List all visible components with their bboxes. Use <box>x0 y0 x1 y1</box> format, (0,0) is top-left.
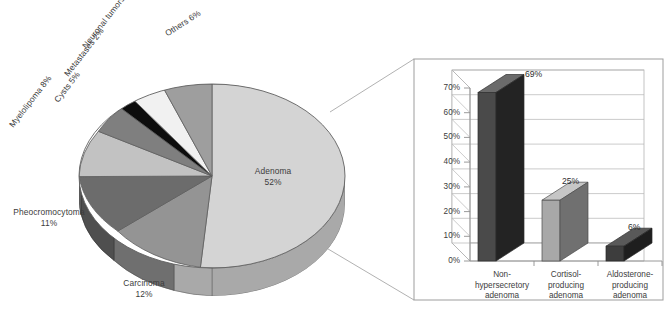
y-tick-40: 40% <box>434 157 460 166</box>
bar-value-label-3: 6% <box>628 222 640 232</box>
bar-value-label-1: 69% <box>525 69 542 79</box>
y-tick-60: 60% <box>434 108 460 117</box>
bar-value-label-2: 25% <box>562 176 579 186</box>
pie-label-pheocromocytoma: Pheocromocytoma 11% <box>2 207 96 228</box>
x-category-aldosterone-producing: Aldosterone- producing adenoma <box>593 270 667 302</box>
y-tick-20: 20% <box>434 207 460 216</box>
figure-canvas: Adenoma 52% Carcinoma 12% Pheocromocytom… <box>0 0 671 322</box>
pie-label-pheocromocytoma-name: Pheocromocytoma <box>2 207 96 218</box>
plot-area-3d <box>452 70 662 266</box>
x-category-non-hypersecretory: Non- hypersecretory adenoma <box>465 270 539 302</box>
pie-label-adenoma: Adenoma 52% <box>242 166 304 187</box>
figure-caption-faint <box>8 313 428 320</box>
y-tick-30: 30% <box>434 182 460 191</box>
bar-non-hypersecretory <box>478 75 524 262</box>
pie-label-pheocromocytoma-value: 11% <box>2 218 96 229</box>
y-tick-50: 50% <box>434 132 460 141</box>
pie-chart <box>79 84 349 296</box>
pie-label-adenoma-value: 52% <box>242 177 304 188</box>
pie-label-carcinoma-name: Carcinoma <box>108 278 180 289</box>
y-tick-10: 10% <box>434 231 460 240</box>
y-tick-70: 70% <box>434 83 460 92</box>
y-tick-0: 0% <box>434 256 460 265</box>
pie-label-adenoma-name: Adenoma <box>242 166 304 177</box>
x-category-cortisol-producing: Cortisol- producing adenoma <box>529 270 603 302</box>
pie-label-carcinoma: Carcinoma 12% <box>108 278 180 299</box>
pie-label-carcinoma-value: 12% <box>108 289 180 300</box>
